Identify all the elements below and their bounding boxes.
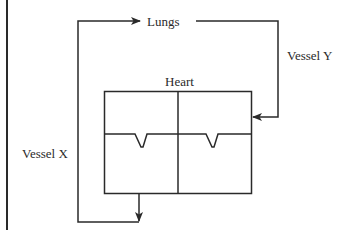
diagram-canvas bbox=[0, 0, 348, 230]
left-valve bbox=[105, 134, 179, 147]
heart-box bbox=[105, 92, 252, 194]
right-valve bbox=[178, 134, 252, 147]
vessel-x-path bbox=[78, 21, 140, 222]
vessel-y-path bbox=[196, 21, 278, 117]
vessel-x-label: Vessel X bbox=[22, 147, 68, 160]
heart-label: Heart bbox=[165, 75, 194, 88]
lungs-label: Lungs bbox=[147, 15, 180, 28]
circulation-diagram: Lungs Vessel Y Heart Vessel X bbox=[0, 0, 348, 230]
vessel-y-label: Vessel Y bbox=[287, 49, 332, 62]
